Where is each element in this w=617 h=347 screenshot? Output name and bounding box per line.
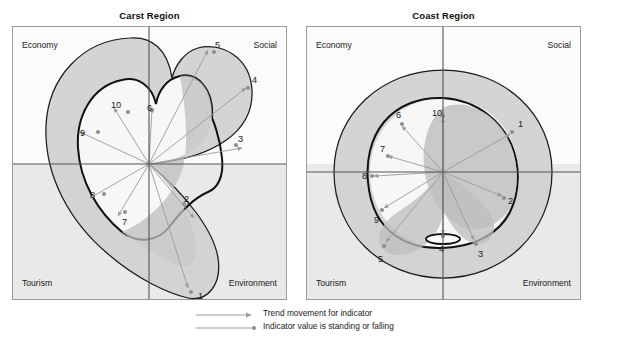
indicator-label-10: 10 — [432, 108, 442, 118]
radar-plot-carst: 1 2 3 4 5 6 7 8 9 10 — [12, 26, 287, 300]
indicator-label-2: 2 — [508, 196, 513, 206]
indicator-label-7: 7 — [380, 144, 385, 154]
legend-label-trend: Trend movement for indicator — [258, 308, 372, 318]
legend: Trend movement for indicator Indicator v… — [196, 306, 456, 332]
indicator-label-8: 8 — [362, 171, 367, 181]
chart-panel-coast: Coast Region — [306, 26, 581, 300]
indicator-label-8: 8 — [90, 190, 95, 200]
indicator-label-4: 4 — [252, 75, 257, 85]
indicator-label-6: 6 — [396, 110, 401, 120]
indicator-label-6: 6 — [147, 103, 152, 113]
indicator-label-7: 7 — [122, 217, 127, 227]
quadrant-label-economy-carst: Economy — [22, 40, 58, 50]
indicator-label-2: 2 — [184, 194, 189, 204]
indicator-label-1: 1 — [518, 119, 523, 129]
legend-item-trend: Trend movement for indicator — [196, 306, 456, 319]
quadrant-label-environment-coast: Environment — [523, 278, 571, 288]
radar-plot-coast: 1 2 3 4 5 6 7 8 9 10 — [306, 26, 581, 300]
legend-item-value: Indicator value is standing or falling — [196, 319, 456, 332]
value-dot-icon — [196, 320, 258, 332]
trend-arrow-icon — [196, 307, 258, 319]
indicator-label-1: 1 — [198, 291, 203, 300]
legend-label-value: Indicator value is standing or falling — [258, 321, 394, 331]
panel-title-carst: Carst Region — [12, 10, 287, 21]
quadrant-label-environment-carst: Environment — [229, 278, 277, 288]
indicator-label-3: 3 — [478, 249, 483, 259]
quadrant-label-tourism-coast: Tourism — [316, 278, 346, 288]
indicator-label-5: 5 — [215, 40, 220, 50]
figure-root: Carst Region — [0, 0, 617, 347]
quadrant-label-social-coast: Social — [548, 40, 571, 50]
quadrant-label-tourism-carst: Tourism — [22, 278, 52, 288]
quadrant-label-social-carst: Social — [254, 40, 277, 50]
indicator-label-3: 3 — [238, 134, 243, 144]
indicator-label-4: 4 — [439, 244, 444, 254]
indicator-label-5: 5 — [378, 254, 383, 264]
indicator-label-9: 9 — [80, 128, 85, 138]
indicator-label-10: 10 — [111, 100, 121, 110]
panel-title-coast: Coast Region — [306, 10, 581, 21]
chart-panel-carst: Carst Region — [12, 26, 287, 300]
indicator-label-9: 9 — [374, 215, 379, 225]
quadrant-label-economy-coast: Economy — [316, 40, 352, 50]
